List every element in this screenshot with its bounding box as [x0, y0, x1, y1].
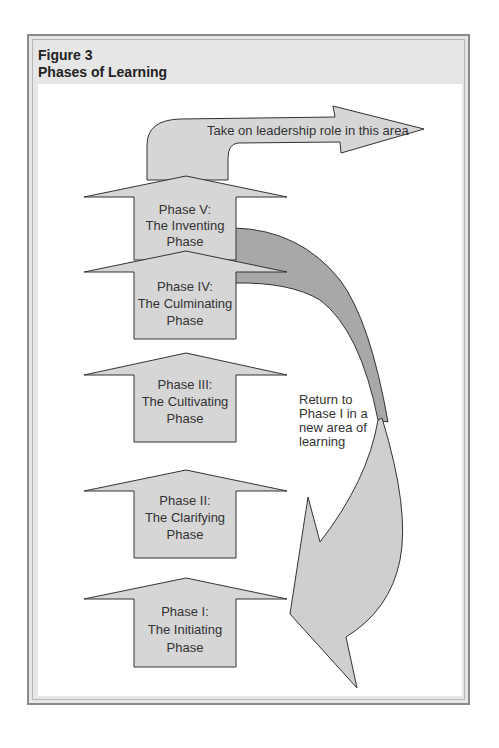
phase-3-arrow: Phase III: The Cultivating Phase — [84, 353, 287, 442]
return-label-4: learning — [299, 434, 345, 449]
svg-text:Phase II:: Phase II: — [159, 493, 210, 508]
svg-text:Phase IV:: Phase IV: — [157, 279, 213, 294]
svg-text:The Culminating: The Culminating — [138, 296, 233, 311]
svg-text:The Cultivating: The Cultivating — [142, 394, 229, 409]
leadership-label: Take on leadership role in this area — [207, 123, 409, 138]
svg-text:Phase V:: Phase V: — [159, 202, 211, 217]
phase-2-arrow: Phase II: The Clarifying Phase — [84, 470, 287, 558]
return-label-2: Phase I in a — [299, 406, 368, 421]
svg-text:Phase: Phase — [167, 527, 204, 542]
phases-diagram: Take on leadership role in this area Ret… — [0, 0, 499, 748]
svg-text:The Initiating: The Initiating — [148, 622, 222, 637]
leadership-arrow: Take on leadership role in this area — [147, 106, 424, 180]
return-label-1: Return to — [299, 392, 352, 407]
svg-text:The Clarifying: The Clarifying — [145, 510, 225, 525]
phase-1-arrow: Phase I: The Initiating Phase — [84, 578, 287, 667]
svg-text:Phase I:: Phase I: — [161, 604, 209, 619]
svg-text:Phase: Phase — [167, 234, 204, 249]
svg-text:Phase: Phase — [167, 313, 204, 328]
svg-text:Phase III:: Phase III: — [158, 377, 213, 392]
return-label-3: new area of — [299, 420, 367, 435]
svg-text:The Inventing: The Inventing — [146, 218, 225, 233]
svg-text:Phase: Phase — [167, 411, 204, 426]
return-arrow: Return to Phase I in a new area of learn… — [235, 228, 403, 688]
svg-text:Phase: Phase — [167, 640, 204, 655]
